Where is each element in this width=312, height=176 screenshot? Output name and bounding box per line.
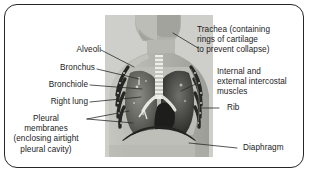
label-rib[interactable]: Rib <box>227 103 267 113</box>
label-alveoli[interactable]: Alveoli <box>23 45 101 55</box>
label-trachea[interactable]: Trachea (containing rings of cartilage t… <box>197 25 303 56</box>
label-diaphragm[interactable]: Diaphragm <box>243 143 303 153</box>
label-intercostal-muscles[interactable]: Internal and external intercostal muscle… <box>217 67 303 98</box>
label-pleural-membranes[interactable]: Pleural membranes (enclosing airtight pl… <box>7 114 85 155</box>
label-bronchus[interactable]: Bronchus <box>13 63 95 73</box>
figure-frame: Alveoli Bronchus Bronchiole Right lung P… <box>4 4 304 168</box>
figure-inner: Alveoli Bronchus Bronchiole Right lung P… <box>5 5 303 167</box>
label-bronchiole[interactable]: Bronchiole <box>7 80 88 90</box>
label-right-lung[interactable]: Right lung <box>13 97 88 107</box>
